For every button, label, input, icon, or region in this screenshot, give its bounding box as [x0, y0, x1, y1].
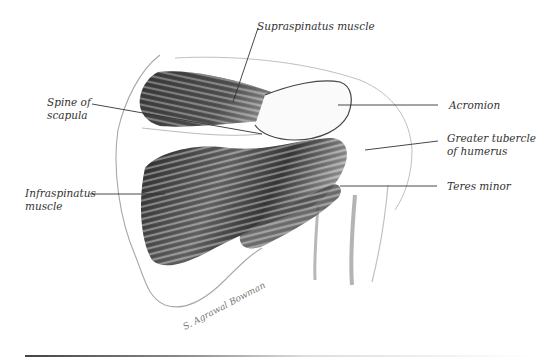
- humerus-shaft: [315, 205, 318, 280]
- leader-greater-tubercle: [365, 141, 438, 150]
- spine-of-scapula: [142, 128, 262, 135]
- bottom-divider: [25, 355, 535, 357]
- artist-signature: S. Agrawal Bowman: [181, 280, 267, 332]
- label-supraspinatus: Supraspinatus muscle: [257, 20, 375, 33]
- label-acromion: Acromion: [449, 99, 500, 112]
- label-greater-tubercle-line1: Greater tubercle: [447, 132, 536, 145]
- acromion: [255, 81, 351, 140]
- label-spine-line2: scapula: [47, 109, 91, 122]
- label-teres-minor: Teres minor: [447, 180, 511, 193]
- label-greater-tubercle-line2: of humerus: [447, 145, 536, 158]
- label-spine-of-scapula: Spine of scapula: [47, 96, 91, 122]
- label-greater-tubercle: Greater tubercle of humerus: [447, 132, 536, 158]
- label-infraspinatus: Infraspinatus muscle: [25, 187, 96, 213]
- label-spine-line1: Spine of: [47, 96, 91, 109]
- label-infraspinatus-line1: Infraspinatus: [25, 187, 96, 200]
- label-infraspinatus-line2: muscle: [25, 200, 96, 213]
